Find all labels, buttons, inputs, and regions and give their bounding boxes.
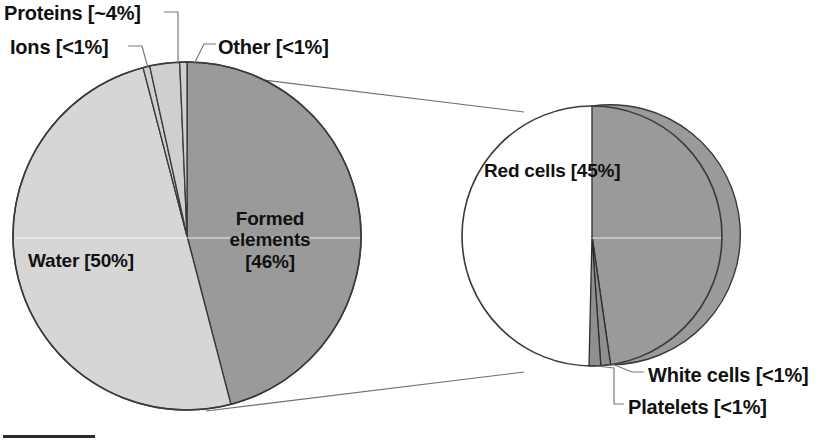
label-formed-elements: Formed elements [46%]: [214, 208, 326, 272]
label-ions: Ions [<1%]: [10, 36, 109, 58]
label-red-cells: Red cells [45%]: [484, 160, 620, 181]
leader-line-proteins: [164, 12, 178, 64]
label-platelets: Platelets [<1%]: [628, 396, 767, 418]
label-other: Other [<1%]: [218, 36, 329, 58]
label-formed-line-1: Formed: [214, 208, 326, 229]
blood-composition-figure: Proteins [~4%] Ions [<1%] Other [<1%] Wa…: [0, 0, 840, 447]
slice-red-cells[interactable]: [592, 105, 740, 365]
label-white-cells: White cells [<1%]: [648, 364, 809, 386]
bottom-rule-artifact: [3, 435, 95, 438]
label-proteins: Proteins [~4%]: [4, 2, 141, 24]
label-water: Water [50%]: [28, 250, 134, 271]
label-formed-line-2: elements: [214, 229, 326, 250]
leader-line-other: [194, 44, 216, 64]
leader-line-ions: [128, 46, 148, 68]
label-formed-line-3: [46%]: [214, 251, 326, 272]
right-pie: [462, 105, 740, 366]
leader-line-platelets: [596, 366, 624, 404]
